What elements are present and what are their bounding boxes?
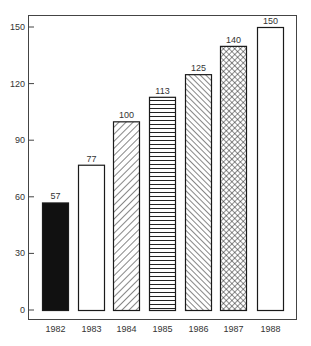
bar-value-label: 140 <box>226 35 241 45</box>
bar-rect <box>186 75 212 311</box>
bar-1986: 125 <box>186 63 212 310</box>
bar-1984: 100 <box>114 110 140 310</box>
bar-value-label: 125 <box>191 63 206 73</box>
bar-1985: 113 <box>150 86 176 311</box>
bar-value-label: 57 <box>50 191 60 201</box>
bar-rect <box>258 28 284 311</box>
bar-rect <box>221 46 247 310</box>
bar-rect <box>150 97 176 310</box>
bar-chart: 0306090120150 5777100113125140150 198219… <box>0 0 311 346</box>
bars: 5777100113125140150 <box>43 16 284 311</box>
y-tick-label: 120 <box>10 79 25 89</box>
x-tick-label: 1985 <box>152 324 172 334</box>
bar-rect <box>43 203 69 311</box>
x-tick-label: 1982 <box>45 324 65 334</box>
bar-rect <box>79 165 105 310</box>
bar-rect <box>114 122 140 311</box>
bar-value-label: 100 <box>119 110 134 120</box>
x-tick-label: 1988 <box>260 324 280 334</box>
bar-value-label: 77 <box>86 154 96 164</box>
y-tick-label: 30 <box>15 248 25 258</box>
bar-value-label: 113 <box>155 86 169 96</box>
y-tick-label: 150 <box>10 22 25 32</box>
bar-1987: 140 <box>221 35 247 311</box>
y-tick-label: 0 <box>20 305 25 315</box>
y-tick-label: 90 <box>15 135 25 145</box>
bar-1988: 150 <box>258 16 284 311</box>
bar-1983: 77 <box>79 154 105 311</box>
x-axis: 1982198319841985198619871988 <box>45 324 280 334</box>
bar-value-label: 150 <box>263 16 278 26</box>
x-tick-label: 1984 <box>116 324 136 334</box>
x-tick-label: 1986 <box>188 324 208 334</box>
bar-1982: 57 <box>43 191 69 310</box>
y-axis: 0306090120150 <box>10 22 34 315</box>
x-tick-label: 1983 <box>81 324 101 334</box>
y-tick-label: 60 <box>15 192 25 202</box>
x-tick-label: 1987 <box>223 324 243 334</box>
